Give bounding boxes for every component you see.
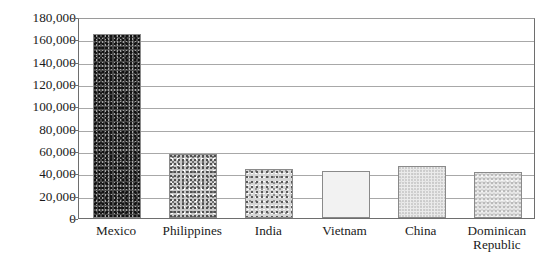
y-axis-tick xyxy=(71,197,78,198)
y-axis-tick-label: 100,000 xyxy=(6,101,76,114)
y-axis-tick xyxy=(71,152,78,153)
y-axis-tick-label: 40,000 xyxy=(6,168,76,181)
gridline xyxy=(79,131,534,132)
y-axis-tick xyxy=(71,40,78,41)
gridline xyxy=(79,86,534,87)
gridline xyxy=(79,41,534,42)
y-axis-tick-label: 120,000 xyxy=(6,78,76,91)
y-axis-tick xyxy=(71,174,78,175)
y-axis-tick-label: 160,000 xyxy=(6,34,76,47)
x-axis-label-india: India xyxy=(224,224,312,238)
y-axis-tick-label: 140,000 xyxy=(6,56,76,69)
x-axis-label-dominican-republic: Dominican Republic xyxy=(453,224,541,252)
y-axis-tick xyxy=(71,219,78,220)
y-axis-tick-label: 60,000 xyxy=(6,145,76,158)
bar-china xyxy=(398,166,446,218)
bar-chart: 180,000160,000140,000120,000100,00080,00… xyxy=(0,0,552,271)
gridline xyxy=(79,198,534,199)
x-axis-label-philippines: Philippines xyxy=(148,224,236,238)
bar-philippines xyxy=(169,154,217,218)
bar-dominican-republic xyxy=(474,172,522,218)
bar-india xyxy=(245,169,293,218)
y-axis-tick-label: 20,000 xyxy=(6,190,76,203)
y-axis-tick xyxy=(71,85,78,86)
gridline xyxy=(79,153,534,154)
y-axis-tick xyxy=(71,63,78,64)
gridline xyxy=(79,108,534,109)
y-axis-tick xyxy=(71,107,78,108)
bar-mexico xyxy=(93,34,141,218)
gridline xyxy=(79,175,534,176)
bar-vietnam xyxy=(322,171,370,218)
y-axis-tick xyxy=(71,130,78,131)
y-axis-tick-label: 0 xyxy=(6,212,76,225)
x-axis-label-china: China xyxy=(377,224,465,238)
y-axis-tick-label: 80,000 xyxy=(6,123,76,136)
plot-area xyxy=(78,18,535,219)
y-axis-tick-label: 180,000 xyxy=(6,11,76,24)
x-axis-label-mexico: Mexico xyxy=(72,224,160,238)
x-axis-label-vietnam: Vietnam xyxy=(301,224,389,238)
gridline xyxy=(79,64,534,65)
y-axis-tick xyxy=(71,18,78,19)
